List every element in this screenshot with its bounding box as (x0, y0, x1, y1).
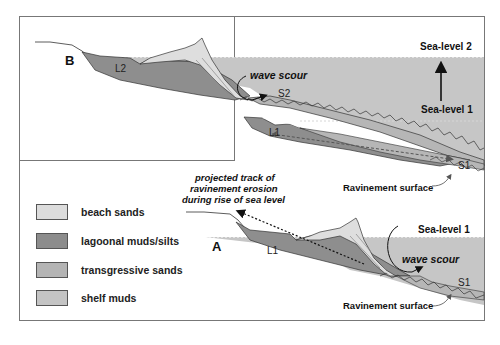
panel-label-a: A (212, 239, 221, 254)
legend-swatch (36, 233, 68, 249)
wave-scour-label-bottom: wave scour (402, 253, 459, 265)
projected-track-line-1: projected track of (195, 172, 275, 183)
legend-swatch (36, 290, 68, 306)
projected-track-line-2: ravinement erosion (190, 183, 278, 194)
ravinement-label-top: Ravinement surface (343, 182, 433, 193)
panel-label-b: B (65, 53, 74, 68)
l2-label: L2 (115, 63, 126, 74)
legend-item-transgressive-sands: transgressive sands (36, 261, 183, 279)
s1-label-bottom: S1 (458, 277, 470, 288)
legend-label: shelf muds (81, 292, 136, 304)
projected-track-line-3: during rise of sea level (182, 194, 285, 205)
legend-item-beach-sands: beach sands (36, 203, 145, 221)
legend-swatch (36, 262, 68, 278)
legend-label: beach sands (81, 206, 145, 218)
s1-label-top: S1 (458, 160, 470, 171)
l1-label-bottom: L1 (267, 245, 278, 256)
legend-item-shelf-muds: shelf muds (36, 289, 136, 307)
sea-level-2-label: Sea-level 2 (420, 41, 472, 52)
s2-label: S2 (278, 88, 290, 99)
legend-item-lagoonal-muds: lagoonal muds/silts (36, 232, 179, 250)
legend-label: transgressive sands (81, 264, 183, 276)
ravinement-label-bottom: Ravinement surface (343, 300, 433, 311)
sea-level-1-label-top: Sea-level 1 (421, 104, 473, 115)
legend-label: lagoonal muds/silts (81, 235, 179, 247)
l1-label-top: L1 (269, 127, 280, 138)
legend-swatch (36, 204, 68, 220)
wave-scour-label-top: wave scour (250, 69, 307, 81)
sea-level-1-label-bottom: Sea-level 1 (418, 224, 470, 235)
